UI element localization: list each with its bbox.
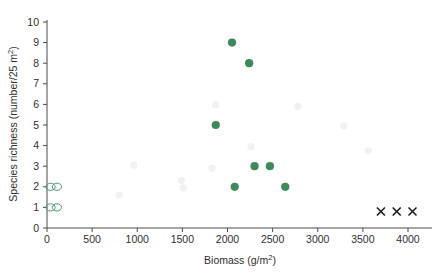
x-tick-label: 500 bbox=[83, 233, 101, 245]
x-tick-label: 3500 bbox=[351, 233, 375, 245]
x-axis-title: Biomass (g/m2) bbox=[204, 253, 276, 266]
faint-marker bbox=[212, 101, 219, 108]
faint-marker-layer bbox=[116, 101, 372, 199]
data-point-filled bbox=[212, 121, 220, 129]
faint-marker bbox=[340, 122, 347, 129]
faint-marker bbox=[180, 184, 187, 191]
data-point-filled bbox=[281, 183, 289, 191]
data-point-filled bbox=[250, 162, 258, 170]
x-tick-label: 1500 bbox=[171, 233, 195, 245]
x-axis-title-tail: ) bbox=[272, 254, 276, 266]
data-point-x bbox=[393, 208, 401, 216]
y-tick-label: 7 bbox=[33, 77, 39, 89]
y-tick-label: 10 bbox=[27, 16, 39, 28]
series-filled-circles bbox=[212, 39, 290, 191]
y-tick-label: 0 bbox=[33, 222, 39, 234]
data-point-x bbox=[377, 208, 385, 216]
y-tick-label: 9 bbox=[33, 36, 39, 48]
x-tick-label: 3000 bbox=[306, 233, 330, 245]
y-axis-title-tail: ) bbox=[7, 46, 19, 50]
x-tick-label: 4000 bbox=[396, 233, 420, 245]
x-axis-title-base: Biomass (g/m bbox=[204, 254, 268, 266]
x-tick-label: 0 bbox=[44, 233, 50, 245]
y-axis-title-base: Species richness (number/25 m bbox=[7, 54, 19, 202]
scatter-plot-figure: 012345678910 050010001500200025003000350… bbox=[0, 0, 444, 276]
x-tick-label: 2000 bbox=[216, 233, 240, 245]
y-tick-label: 5 bbox=[33, 119, 39, 131]
y-tick-label: 3 bbox=[33, 160, 39, 172]
data-point-x bbox=[409, 208, 417, 216]
x-tick-label: 1000 bbox=[126, 233, 150, 245]
data-series-layer bbox=[46, 39, 417, 216]
y-tick-label: 8 bbox=[33, 57, 39, 69]
x-tick-label: 2500 bbox=[261, 233, 285, 245]
data-point-open bbox=[52, 183, 61, 190]
y-tick-label: 4 bbox=[33, 139, 39, 151]
data-point-filled bbox=[231, 183, 239, 191]
faint-marker bbox=[294, 103, 301, 110]
faint-marker bbox=[209, 165, 216, 172]
faint-marker bbox=[130, 162, 137, 169]
data-point-filled bbox=[228, 39, 236, 47]
y-tick-label: 6 bbox=[33, 98, 39, 110]
faint-marker bbox=[116, 191, 123, 198]
y-axis-ticks: 012345678910 bbox=[27, 16, 47, 234]
faint-marker bbox=[365, 147, 372, 154]
data-point-filled bbox=[266, 162, 274, 170]
y-tick-label: 2 bbox=[33, 180, 39, 192]
x-axis-ticks: 05001000150020002500300035004000 bbox=[44, 228, 420, 245]
faint-marker bbox=[178, 177, 185, 184]
series-x-markers bbox=[377, 208, 417, 216]
y-axis-title: Species richness (number/25 m2) bbox=[6, 46, 19, 201]
data-point-open bbox=[52, 204, 61, 211]
data-point-filled bbox=[245, 59, 253, 67]
plot-canvas: 012345678910 050010001500200025003000350… bbox=[0, 0, 444, 276]
faint-marker bbox=[247, 143, 254, 150]
series-open-circles bbox=[46, 183, 62, 211]
y-tick-label: 1 bbox=[33, 201, 39, 213]
